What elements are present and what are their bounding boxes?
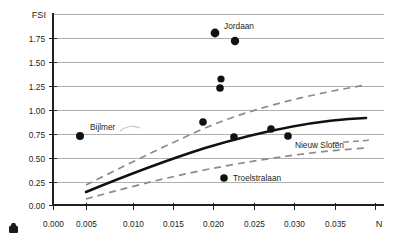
trend-upper-dashed-line: [86, 85, 366, 185]
x-tick-label-0-030: 0.030: [284, 219, 305, 229]
y-tick-label-1-25: 1.25: [29, 82, 46, 92]
data-point-jordaan-b: [231, 37, 239, 45]
y-tick-label-0-50: 0.50: [29, 154, 46, 164]
data-point-075: [230, 133, 238, 141]
x-axis-tick-labels: 0.000 0.005 0.010 0.015 0.020 0.025 0.03…: [43, 219, 346, 229]
y-tick-label-1-00: 1.00: [29, 106, 46, 116]
x-axis-title: N: [376, 219, 383, 229]
chart-container: 1.75 1.50 1.25 1.00 0.75 0.50 0.25 0.00 …: [0, 0, 397, 244]
y-tick-label-0-25: 0.25: [29, 178, 46, 188]
data-point-135: [217, 75, 224, 82]
y-tick-label-0-00: 0.00: [29, 201, 46, 211]
gridlines: [53, 15, 384, 183]
x-tick-label-0-015: 0.015: [163, 219, 184, 229]
fsi-vs-n-scatter-chart: 1.75 1.50 1.25 1.00 0.75 0.50 0.25 0.00 …: [0, 0, 397, 244]
x-tick-label-0-000: 0.000: [43, 219, 64, 229]
data-point-083: [267, 125, 275, 133]
x-tick-label-0-005: 0.005: [76, 219, 97, 229]
data-point-nieuw-sloten: [284, 132, 292, 140]
data-point-127: [216, 84, 224, 92]
annotation-troelstralaan: Troelstralaan: [233, 173, 281, 183]
x-tick-label-0-020: 0.020: [203, 219, 224, 229]
y-axis-title: FSI: [32, 10, 46, 20]
corner-mark-icon: [9, 223, 18, 233]
data-point-troelstralaan: [220, 174, 228, 182]
data-point-088: [199, 118, 207, 126]
faint-arc-decoration: [120, 126, 140, 131]
x-tick-label-0-035: 0.035: [325, 219, 346, 229]
annotation-jordaan: Jordaan: [224, 21, 254, 31]
annotation-bijlmer: Bijlmer: [90, 122, 116, 132]
data-point-jordaan-a: [211, 29, 220, 38]
y-tick-label-1-75: 1.75: [29, 34, 46, 44]
y-axis-tick-labels: 1.75 1.50 1.25 1.00 0.75 0.50 0.25 0.00: [29, 34, 46, 211]
x-tick-label-0-010: 0.010: [123, 219, 144, 229]
trend-lower-dashed-line: [86, 148, 366, 199]
y-tick-label-0-75: 0.75: [29, 130, 46, 140]
data-point-bijlmer: [76, 132, 84, 140]
annotation-nieuw-sloten: Nieuw Sloten: [295, 140, 344, 150]
y-tick-label-1-50: 1.50: [29, 58, 46, 68]
x-tick-label-0-025: 0.025: [244, 219, 265, 229]
